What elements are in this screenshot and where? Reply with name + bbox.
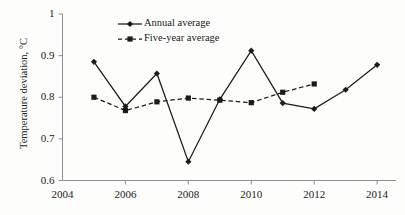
x-axis-ticks: [125, 181, 377, 185]
x-tick-label: 2012: [294, 189, 334, 200]
x-tick-label: 2008: [168, 189, 208, 200]
x-tick-label: 2004: [43, 189, 83, 200]
y-tick-label: 1: [29, 8, 55, 19]
chart-axes: [63, 14, 397, 181]
y-axis-title: Temperature deviation, °C: [18, 19, 29, 169]
y-tick-label: 0.6: [29, 175, 55, 186]
chart-figure: Temperature deviation, °C 0.60.70.80.912…: [0, 0, 405, 215]
y-axis-ticks: [59, 14, 63, 181]
series-five-year-average: [91, 48, 380, 165]
y-tick-label: 0.7: [29, 133, 55, 144]
legend-glyphs: [118, 21, 142, 42]
y-tick-label: 0.8: [29, 91, 55, 102]
legend-label-annual-average: Annual average: [144, 17, 210, 28]
x-tick-label: 2010: [231, 189, 271, 200]
x-tick-label: 2014: [357, 189, 397, 200]
y-tick-label: 0.9: [29, 50, 55, 61]
x-tick-label: 2006: [105, 189, 145, 200]
legend-label-five-year-average: Five-year average: [144, 32, 220, 43]
